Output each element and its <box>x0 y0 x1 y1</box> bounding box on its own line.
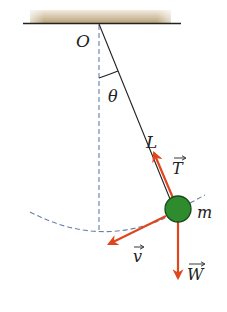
velocity-vector <box>109 216 166 244</box>
pivot-label: O <box>76 31 90 51</box>
pendulum-string <box>99 24 170 199</box>
mass-label: m <box>197 203 212 222</box>
velocity-label-group: v <box>133 245 144 266</box>
weight-label: W <box>187 265 205 284</box>
tension-label-group: T <box>172 156 186 178</box>
velocity-label: v <box>133 247 142 266</box>
pendulum-bob <box>165 196 191 222</box>
angle-arc <box>99 71 118 78</box>
length-label: L <box>145 132 157 152</box>
tension-vector <box>154 153 173 198</box>
swing-path-arc-extension <box>190 195 205 203</box>
tension-label: T <box>172 159 184 178</box>
ceiling-support <box>23 10 181 24</box>
pendulum-diagram: O θ L m T v W <box>0 0 227 312</box>
weight-label-group: W <box>187 262 205 284</box>
swing-path-arc <box>30 212 165 232</box>
angle-label: θ <box>108 87 118 106</box>
